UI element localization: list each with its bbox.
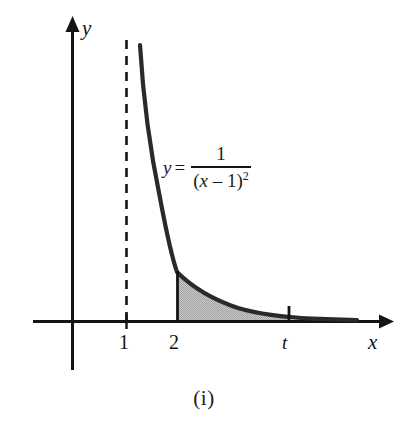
tick-label-2: 2 — [169, 332, 179, 352]
equation-equals-sign: = — [174, 157, 185, 179]
denominator-one: 1 — [227, 170, 237, 191]
y-axis-label: y — [82, 18, 91, 39]
denominator-exponent: 2 — [243, 169, 249, 183]
figure-graphic — [0, 0, 408, 430]
equation-fraction: 1 (x – 1)2 — [191, 143, 251, 192]
tick-label-1: 1 — [119, 332, 129, 352]
tick-label-t: t — [282, 333, 287, 352]
figure-container: y x 1 2 t y = 1 (x – 1)2 (i) — [0, 0, 408, 430]
fraction-numerator: 1 — [206, 143, 236, 166]
denominator-variable: x — [199, 170, 207, 191]
x-axis-label: x — [368, 332, 377, 353]
y-axis — [66, 16, 80, 370]
function-equation-label: y = 1 (x – 1)2 — [163, 143, 251, 192]
denominator-minus: – — [208, 170, 227, 191]
figure-caption: (i) — [0, 386, 408, 411]
equation-lhs: y — [163, 157, 171, 179]
fraction-denominator: (x – 1)2 — [191, 168, 251, 192]
